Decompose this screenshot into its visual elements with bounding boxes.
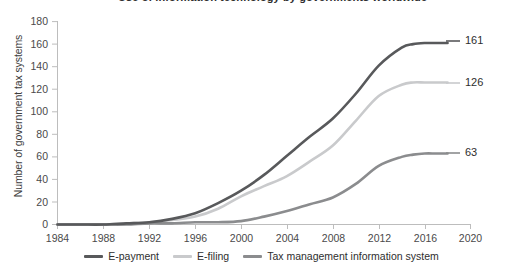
x-tick-label: 2000	[230, 232, 254, 244]
x-tick-label: 2012	[368, 232, 392, 244]
x-tick-label: 2020	[459, 232, 483, 244]
plot-area: 0 20 40 60 80 100 120 140 160 180 1984	[0, 0, 523, 269]
y-tick-label: 120	[30, 83, 48, 95]
series-line-tax-management-information-system	[58, 153, 448, 224]
x-tick-label: 2016	[414, 232, 438, 244]
y-tick-label: 20	[36, 196, 48, 208]
end-leader-lines	[446, 41, 460, 153]
legend-item-efiling[interactable]: E-filing	[173, 250, 229, 262]
legend-swatch-icon	[84, 255, 103, 258]
legend-item-epayment[interactable]: E-payment	[84, 250, 159, 262]
x-tick-label: 1996	[184, 232, 208, 244]
end-label-efiling: 126	[465, 76, 483, 88]
x-tick-label: 2008	[322, 232, 346, 244]
x-tick-label: 2004	[276, 232, 300, 244]
legend-swatch-icon	[243, 255, 262, 258]
end-label-epayment: 161	[465, 34, 483, 46]
legend-item-tmis[interactable]: Tax management information system	[243, 250, 439, 262]
legend: E-payment E-filing Tax management inform…	[0, 250, 523, 262]
legend-label: E-filing	[197, 250, 229, 262]
legend-swatch-icon	[173, 255, 192, 258]
series-line-e-filing	[58, 82, 448, 224]
y-tick-label: 160	[30, 38, 48, 50]
x-tick-label: 1992	[138, 232, 162, 244]
y-tick-label: 40	[36, 173, 48, 185]
y-tick-label: 100	[30, 105, 48, 117]
y-tick-label: 80	[36, 128, 48, 140]
y-axis-ticks	[52, 22, 57, 225]
y-tick-label: 180	[30, 15, 48, 27]
x-tick-labels: 1984 1988 1992 1996 2000 2004 2008 2012 …	[46, 232, 483, 244]
y-tick-label: 60	[36, 150, 48, 162]
series-line-e-payment	[58, 43, 448, 225]
chart-container: Use of information technology by governm…	[0, 0, 523, 269]
series-layer	[58, 43, 448, 225]
legend-label: E-payment	[108, 250, 159, 262]
x-tick-label: 1984	[46, 232, 70, 244]
x-tick-label: 1988	[92, 232, 116, 244]
end-label-tmis: 63	[465, 146, 477, 158]
legend-label: Tax management information system	[267, 250, 439, 262]
y-tick-labels: 0 20 40 60 80 100 120 140 160 180	[30, 15, 48, 230]
y-tick-label: 0	[42, 218, 48, 230]
y-tick-label: 140	[30, 60, 48, 72]
